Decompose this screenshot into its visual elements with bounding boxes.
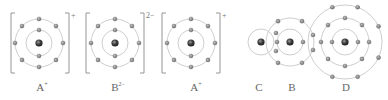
nucleus-icon (187, 39, 194, 46)
electron-icon (376, 24, 380, 28)
electron-icon (319, 40, 323, 44)
nucleus-icon (257, 38, 264, 45)
electron-icon (54, 24, 58, 28)
electron-icon (61, 41, 65, 45)
label-symbol: B (288, 81, 295, 93)
electron-icon (276, 61, 280, 65)
electron-icon (311, 48, 315, 52)
electron-icon (189, 65, 193, 69)
electron-icon (356, 5, 360, 9)
ion-A-1: + (11, 11, 76, 73)
electron-icon (37, 65, 41, 69)
electron-icon (356, 40, 360, 44)
electron-icon (96, 58, 100, 62)
atom-label: A+ (36, 81, 47, 93)
electron-icon (206, 24, 210, 28)
electron-icon (300, 61, 304, 65)
charge-superscript: + (71, 11, 76, 20)
electron-icon (189, 28, 193, 32)
atom-label: D (342, 81, 350, 93)
electron-icon (330, 40, 334, 44)
charge-superscript: + (222, 11, 227, 20)
electron-icon (189, 54, 193, 58)
label-symbol: D (342, 81, 350, 93)
electron-icon (360, 57, 364, 61)
atom-label: A+ (190, 81, 201, 93)
right-bracket (65, 13, 69, 73)
electron-icon (274, 31, 278, 35)
atom-D (308, 5, 382, 79)
electron-icon (37, 17, 41, 21)
charge-superscript: 2− (146, 11, 155, 20)
electron-icon (37, 28, 41, 32)
electron-icon (37, 54, 41, 58)
electron-icon (330, 75, 334, 79)
electron-icon (343, 16, 347, 20)
electron-icon (113, 65, 117, 69)
electron-icon (360, 23, 364, 27)
electron-icon (356, 75, 360, 79)
electron-icon (89, 41, 93, 45)
electron-icon (130, 58, 134, 62)
label-symbol: A (36, 81, 44, 93)
ionic-compound: +2−+ (11, 11, 227, 73)
nucleus-icon (286, 38, 293, 45)
electron-icon (130, 24, 134, 28)
electron-icon (54, 58, 58, 62)
electron-icon (376, 56, 380, 60)
electron-icon (165, 41, 169, 45)
covalent-molecule (248, 5, 382, 79)
atom-label: C (255, 81, 262, 93)
electron-icon (206, 58, 210, 62)
electron-icon (96, 24, 100, 28)
electron-icon (343, 64, 347, 68)
electron-icon (326, 23, 330, 27)
electron-icon (20, 24, 24, 28)
atom-label: B2− (111, 81, 125, 93)
label-charge: + (44, 81, 47, 87)
electron-icon (330, 5, 334, 9)
nucleus-icon (111, 39, 118, 46)
electron-icon (300, 19, 304, 23)
label-charge: + (198, 81, 201, 87)
electron-icon (367, 40, 371, 44)
atom-C (248, 29, 274, 55)
ion-A-2: + (162, 11, 227, 73)
label-symbol: C (255, 81, 262, 93)
ion-B: 2− (86, 11, 155, 73)
electron-icon (189, 17, 193, 21)
electron-icon (113, 54, 117, 58)
nucleus-icon (35, 39, 42, 46)
electron-icon (275, 40, 279, 44)
label-symbol: A (190, 81, 198, 93)
electron-icon (113, 28, 117, 32)
electron-icon (172, 58, 176, 62)
electron-icon (172, 24, 176, 28)
atom-label: B (288, 81, 295, 93)
electron-icon (301, 40, 305, 44)
nucleus-icon (341, 38, 348, 45)
electron-icon (13, 41, 17, 45)
electron-icon (274, 49, 278, 53)
label-charge: 2− (118, 81, 124, 87)
electron-icon (276, 19, 280, 23)
electron-icon (213, 41, 217, 45)
electron-icon (137, 41, 141, 45)
electron-icon (311, 33, 315, 37)
electron-icon (113, 17, 117, 21)
electron-icon (326, 57, 330, 61)
electron-icon (20, 58, 24, 62)
